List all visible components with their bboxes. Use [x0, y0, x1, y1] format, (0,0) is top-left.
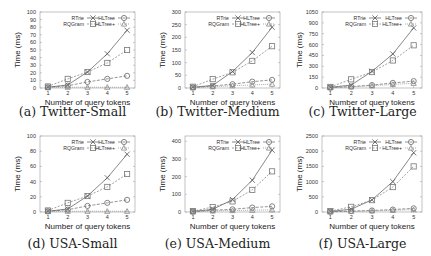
svg-text:3: 3: [231, 214, 234, 220]
legend: RTrieRQGramHLTreeHLTree+: [63, 15, 130, 27]
svg-text:40: 40: [30, 179, 36, 185]
svg-text:1: 1: [329, 214, 332, 220]
svg-text:3: 3: [86, 214, 89, 220]
svg-text:5: 5: [271, 90, 274, 96]
svg-text:Time (ms): Time (ms): [295, 32, 304, 68]
svg-text:Time (ms): Time (ms): [158, 32, 167, 68]
svg-text:4: 4: [391, 214, 394, 220]
series-rtrie: [328, 25, 417, 90]
legend: RTrieRQGramHLTreeHLTree+: [63, 139, 130, 151]
svg-text:80: 80: [30, 24, 36, 30]
chart-caption: (a) Twitter-Small: [0, 104, 145, 119]
svg-text:Time (ms): Time (ms): [158, 156, 167, 192]
chart-twitter-small: 010203040506070809010012345Number of que…: [0, 0, 145, 128]
svg-text:1: 1: [329, 90, 332, 96]
svg-text:HLTree+: HLTree+: [240, 145, 260, 151]
svg-text:RQGram: RQGram: [63, 145, 84, 151]
svg-text:Time (ms): Time (ms): [13, 32, 22, 68]
svg-text:40: 40: [30, 55, 36, 61]
svg-text:2: 2: [211, 90, 214, 96]
chart-caption: (f) USA-Large: [290, 236, 431, 251]
svg-text:HLTree+: HLTree+: [382, 145, 402, 151]
svg-text:450: 450: [309, 52, 318, 58]
svg-text:2: 2: [211, 214, 214, 220]
svg-text:HLTree+: HLTree+: [382, 21, 402, 27]
series-rtrie: [328, 150, 417, 214]
svg-text:0: 0: [315, 85, 318, 91]
svg-text:100: 100: [27, 9, 36, 15]
chart-caption: (b) Twitter-Medium: [145, 104, 290, 119]
legend: RTrieRQGramHLTreeHLTree+: [345, 139, 417, 151]
svg-text:30: 30: [30, 62, 36, 68]
svg-text:Time (ms): Time (ms): [295, 156, 304, 192]
svg-text:60: 60: [30, 163, 36, 169]
series-rqgram: [328, 164, 417, 214]
chart-usa-medium: 010020030040012345Number of query tokens…: [145, 124, 290, 252]
series-rtrie: [45, 152, 129, 214]
svg-text:HLTree+: HLTree+: [95, 145, 115, 151]
svg-text:90: 90: [30, 17, 36, 23]
svg-text:2500: 2500: [306, 133, 318, 139]
svg-text:2: 2: [350, 90, 353, 96]
svg-text:900: 900: [309, 20, 318, 26]
svg-text:5: 5: [126, 90, 129, 96]
svg-text:250: 250: [172, 22, 181, 28]
svg-text:1: 1: [191, 214, 194, 220]
svg-text:50: 50: [30, 47, 36, 53]
svg-text:1: 1: [46, 214, 49, 220]
chart-caption: (d) USA-Small: [0, 236, 145, 251]
svg-text:2000: 2000: [306, 148, 318, 154]
svg-text:5: 5: [271, 214, 274, 220]
svg-text:Number of query tokens: Number of query tokens: [45, 222, 130, 231]
svg-text:100: 100: [172, 191, 181, 197]
svg-text:2: 2: [350, 214, 353, 220]
svg-text:3: 3: [370, 214, 373, 220]
svg-text:1050: 1050: [306, 9, 318, 15]
svg-text:3: 3: [231, 90, 234, 96]
svg-text:HLTree+: HLTree+: [95, 21, 115, 27]
svg-text:2: 2: [66, 90, 69, 96]
chart-usa-small: 02040608010012345Number of query tokensT…: [0, 124, 145, 252]
svg-text:1000: 1000: [306, 179, 318, 185]
svg-text:Number of query tokens: Number of query tokens: [329, 222, 414, 231]
svg-text:RQGram: RQGram: [208, 145, 229, 151]
svg-text:750: 750: [309, 31, 318, 37]
series-rqgram: [45, 171, 129, 213]
svg-text:70: 70: [30, 32, 36, 38]
legend: RTrieRQGramHLTreeHLTree+: [208, 139, 275, 151]
svg-text:0: 0: [178, 209, 181, 215]
legend: RTrieRQGramHLTreeHLTree+: [208, 15, 275, 27]
svg-text:5: 5: [412, 90, 415, 96]
svg-text:500: 500: [309, 194, 318, 200]
series-rtrie: [190, 25, 274, 90]
chart-twitter-medium: 05010015020025030012345Number of query t…: [145, 0, 290, 128]
svg-text:4: 4: [251, 214, 254, 220]
plot-area: 010020030040012345Number of query tokens…: [145, 124, 290, 252]
chart-caption: (e) USA-Medium: [145, 236, 290, 251]
svg-text:1500: 1500: [306, 163, 318, 169]
series-rtrie: [45, 28, 129, 90]
series-hltree: [328, 79, 417, 91]
svg-text:0: 0: [315, 209, 318, 215]
svg-text:10: 10: [30, 77, 36, 83]
svg-text:200: 200: [172, 34, 181, 40]
svg-text:1: 1: [191, 90, 194, 96]
svg-text:5: 5: [412, 214, 415, 220]
chart-twitter-large: 0150300450600750900105012345Number of qu…: [290, 0, 431, 128]
svg-text:20: 20: [30, 70, 36, 76]
plot-area: 02040608010012345Number of query tokensT…: [0, 124, 145, 252]
svg-text:0: 0: [178, 85, 181, 91]
legend: RTrieRQGramHLTreeHLTree+: [345, 15, 417, 27]
svg-text:20: 20: [30, 194, 36, 200]
svg-text:3: 3: [86, 90, 89, 96]
svg-text:300: 300: [172, 156, 181, 162]
svg-text:RQGram: RQGram: [63, 21, 84, 27]
svg-text:RQGram: RQGram: [345, 145, 366, 151]
svg-text:60: 60: [30, 39, 36, 45]
svg-text:200: 200: [172, 174, 181, 180]
svg-text:100: 100: [27, 133, 36, 139]
svg-text:4: 4: [106, 90, 109, 96]
plot-area: 0500100015002000250012345Number of query…: [290, 124, 431, 252]
svg-text:150: 150: [309, 74, 318, 80]
svg-text:0: 0: [33, 85, 36, 91]
